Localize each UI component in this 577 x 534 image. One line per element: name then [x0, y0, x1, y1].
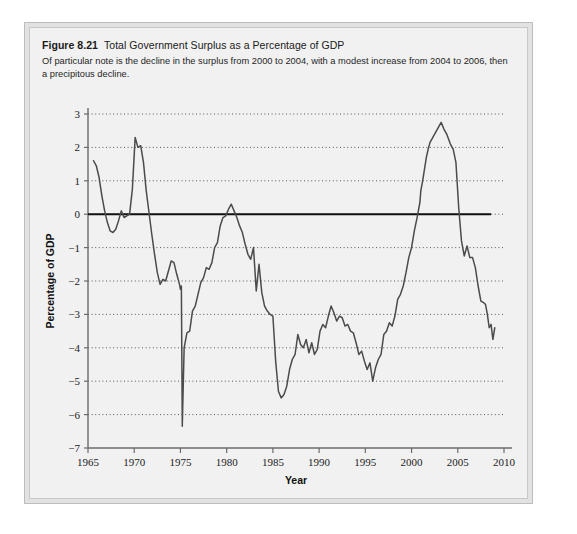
- figure-title-line: Figure 8.21 Total Government Surplus as …: [42, 38, 517, 52]
- y-tick-label: 2: [75, 141, 81, 153]
- y-tick-label: −7: [68, 442, 80, 454]
- x-tick-label: 2000: [401, 456, 424, 468]
- y-tick-label: −5: [68, 375, 80, 387]
- y-tick-label: 0: [75, 208, 81, 220]
- y-axis-ticks: 3210−1−2−3−4−5−6−7: [68, 108, 88, 454]
- figure-page: Figure 8.21 Total Government Surplus as …: [0, 0, 577, 534]
- figure-number: Figure 8.21: [42, 39, 98, 51]
- grid-lines: [88, 114, 504, 415]
- x-tick-label: 1985: [262, 456, 285, 468]
- x-tick-label: 1965: [77, 456, 100, 468]
- x-tick-label: 1975: [169, 456, 192, 468]
- figure-caption: Figure 8.21 Total Government Surplus as …: [42, 38, 517, 80]
- x-axis-title: Year: [285, 474, 307, 486]
- x-tick-label: 1995: [354, 456, 377, 468]
- y-tick-label: −4: [68, 342, 80, 354]
- y-tick-label: −2: [68, 275, 80, 287]
- figure-panel: Figure 8.21 Total Government Surplus as …: [24, 22, 533, 504]
- line-chart: 3210−1−2−3−4−5−6−7 196519701975198019851…: [42, 100, 522, 490]
- y-tick-label: 3: [75, 108, 81, 120]
- figure-inner-frame: Figure 8.21 Total Government Surplus as …: [29, 27, 528, 499]
- chart-area: 3210−1−2−3−4−5−6−7 196519701975198019851…: [42, 100, 522, 490]
- y-axis-title: Percentage of GDP: [44, 233, 56, 328]
- figure-title: Total Government Surplus as a Percentage…: [104, 39, 344, 51]
- x-tick-label: 1980: [216, 456, 239, 468]
- y-tick-label: −3: [68, 308, 80, 320]
- figure-description: Of particular note is the decline in the…: [42, 55, 512, 80]
- x-axis-ticks: 1965197019751980198519901995200020052010: [77, 448, 516, 468]
- y-tick-label: 1: [75, 175, 81, 187]
- y-tick-label: −6: [68, 409, 80, 421]
- series-line-surplus: [94, 122, 495, 426]
- x-tick-label: 1970: [123, 456, 146, 468]
- x-tick-label: 2010: [493, 456, 516, 468]
- x-tick-label: 1990: [308, 456, 331, 468]
- y-tick-label: −1: [68, 242, 80, 254]
- x-tick-label: 2005: [447, 456, 470, 468]
